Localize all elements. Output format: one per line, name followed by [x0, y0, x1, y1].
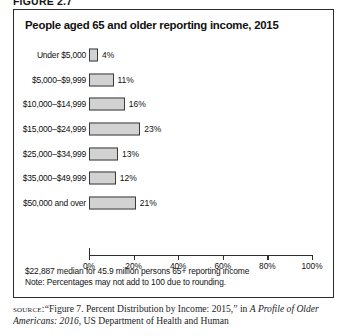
bar [89, 196, 136, 209]
bar-category-label: Under $5,000 [14, 50, 86, 60]
x-axis-line [89, 255, 312, 256]
bar [89, 98, 125, 111]
x-axis-tick [312, 255, 313, 260]
chart-plot-area: Under $5,0004%$5,000–$9,99911%$10,000–$1… [14, 43, 335, 258]
source-text-part3: , US Department of Health and Human [79, 315, 229, 326]
figure-screenshot: FIGURE 2.7 People aged 65 and older repo… [0, 0, 339, 336]
bar-category-label: $35,000–$49,999 [14, 173, 86, 183]
source-italic-title-1: A Profile [250, 303, 284, 314]
bar-value-label: 13% [122, 149, 139, 159]
rounding-note: Note: Percentages may not add to 100 due… [25, 277, 249, 288]
bar-category-label: $25,000–$34,999 [14, 149, 86, 159]
x-axis-tick [267, 255, 268, 260]
median-note: $22,887 median for 45.9 million persons … [25, 266, 249, 277]
bar-track: 16% [89, 92, 335, 117]
bar-value-label: 11% [118, 75, 134, 85]
x-axis-tick [178, 255, 179, 260]
source-citation: SOURCE:“Figure 7. Percent Distribution b… [13, 303, 339, 336]
bar-row: $35,000–$49,99912% [14, 166, 335, 191]
x-axis-tick [89, 255, 90, 260]
bar-category-label: $15,000–$24,999 [14, 124, 86, 134]
source-text-part1: “Figure 7. Percent Distribution by Incom… [45, 303, 250, 314]
x-axis-tick [223, 255, 224, 260]
bar-category-label: $10,000–$14,999 [14, 99, 86, 109]
bar [89, 147, 118, 160]
bar-row: $25,000–$34,99913% [14, 141, 335, 166]
bar-row: $10,000–$14,99916% [14, 92, 335, 117]
bar-value-label: 4% [102, 50, 114, 60]
bar-rows: Under $5,0004%$5,000–$9,99911%$10,000–$1… [14, 43, 335, 215]
bar-track: 21% [89, 191, 335, 216]
bar-value-label: 12% [120, 173, 137, 183]
bar-value-label: 16% [129, 99, 146, 109]
bar-row: $5,000–$9,99911% [14, 68, 335, 93]
chart-title: People aged 65 and older reporting incom… [25, 19, 278, 31]
bar [89, 123, 140, 136]
bar-track: 4% [89, 43, 335, 68]
bar-track: 23% [89, 117, 335, 142]
bar [89, 172, 116, 185]
bar-track: 11% [89, 68, 335, 93]
bar [89, 49, 98, 62]
bar-row: $15,000–$24,99923% [14, 117, 335, 142]
bar-track: 12% [89, 166, 335, 191]
bar-value-label: 23% [144, 124, 161, 134]
x-axis-tick-label: 100% [301, 261, 322, 271]
bar-category-label: $50,000 and over [14, 198, 86, 208]
bar-row: Under $5,0004% [14, 43, 335, 68]
source-label: SOURCE: [13, 304, 45, 314]
x-axis-tick [134, 255, 135, 260]
figure-number-label: FIGURE 2.7 [13, 0, 72, 7]
bar-category-label: $5,000–$9,999 [14, 75, 86, 85]
bar-value-label: 21% [140, 198, 157, 208]
bar-track: 13% [89, 141, 335, 166]
x-axis-tick-label: 80% [259, 261, 276, 271]
bar-row: $50,000 and over21% [14, 191, 335, 216]
chart-footnotes: $22,887 median for 45.9 million persons … [25, 266, 249, 288]
bar [89, 73, 114, 86]
figure-box: People aged 65 and older reporting incom… [13, 9, 334, 298]
